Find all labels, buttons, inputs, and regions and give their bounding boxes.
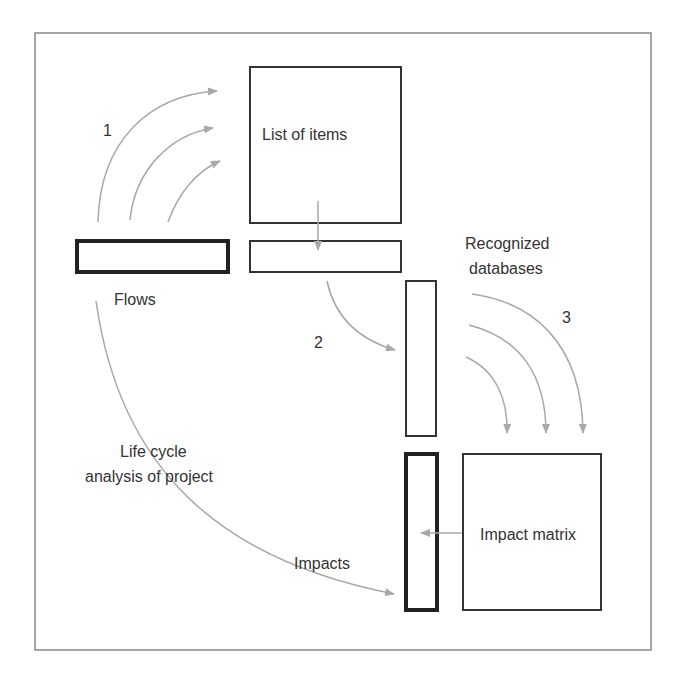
label-step-3: 3: [562, 309, 571, 326]
label-flows: Flows: [114, 291, 156, 308]
label-impact-matrix: Impact matrix: [480, 526, 576, 543]
impacts-box: [406, 454, 437, 610]
database-vector-box: [406, 281, 436, 436]
arrow-1a: [98, 91, 217, 222]
label-impacts: Impacts: [294, 555, 350, 572]
arrow-3c: [466, 357, 507, 433]
label-lca-line2: analysis of project: [85, 468, 214, 485]
lca-diagram: 1 List of items Flows Recognized databas…: [0, 0, 689, 682]
label-lca-line1: Life cycle: [120, 443, 187, 460]
label-databases: databases: [469, 260, 543, 277]
list-of-items-box: [250, 67, 401, 223]
arrow-1c: [168, 161, 220, 222]
arrow-3b: [469, 325, 546, 433]
arrow-2: [327, 281, 395, 350]
label-step-1: 1: [103, 122, 112, 139]
items-vector-box: [250, 241, 401, 272]
label-recognized: Recognized: [465, 235, 550, 252]
label-list-of-items: List of items: [262, 126, 347, 143]
flows-box: [77, 241, 228, 272]
arrow-1b: [130, 128, 213, 220]
label-step-2: 2: [314, 334, 323, 351]
